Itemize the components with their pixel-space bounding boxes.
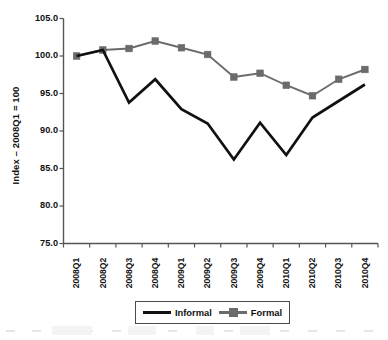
- scan-artifact-smudge: [128, 326, 156, 335]
- x-tick-label-text: 2009Q2: [203, 258, 213, 289]
- scan-artifact-mark: [336, 330, 345, 332]
- x-tick-label-text: 2010Q1: [281, 258, 291, 289]
- x-tick-label-text: 2010Q4: [360, 258, 370, 289]
- x-tick-label: 2010Q3: [333, 249, 345, 301]
- x-tick-label: 2008Q4: [149, 249, 161, 301]
- x-tick-label: 2008Q1: [71, 249, 83, 301]
- x-tick-label: 2008Q3: [123, 249, 135, 301]
- scan-artifact-mark: [364, 330, 373, 332]
- legend-swatch-informal: [143, 307, 171, 318]
- scan-artifact-mark: [6, 330, 15, 332]
- x-tick-label-text: 2009Q4: [255, 258, 265, 289]
- scan-artifact-smudge: [196, 326, 214, 335]
- x-tick-label: 2009Q1: [175, 249, 187, 301]
- x-tick-label-text: 2008Q1: [72, 258, 82, 289]
- scan-artifact-mark: [112, 330, 121, 332]
- x-tick-label: 2010Q2: [306, 249, 318, 301]
- x-tick-label: 2008Q2: [97, 249, 109, 301]
- x-tick-label: 2010Q4: [359, 249, 371, 301]
- x-tick-label: 2009Q4: [254, 249, 266, 301]
- legend-line-informal: [143, 311, 171, 314]
- scan-artifact-smudge: [240, 326, 270, 335]
- chart-figure: Index – 2008Q1 = 100 75.080.085.090.095.…: [0, 0, 388, 340]
- scan-artifact: [0, 326, 388, 340]
- legend-marker-formal: [229, 308, 238, 317]
- legend-item-formal: Formal: [219, 307, 282, 318]
- legend-swatch-formal: [219, 307, 247, 318]
- x-tick-label-text: 2008Q4: [150, 258, 160, 289]
- legend-label-formal: Formal: [251, 308, 282, 317]
- legend-label-informal: Informal: [175, 308, 212, 317]
- scan-artifact-mark: [32, 330, 41, 332]
- x-tick-label-text: 2008Q2: [98, 258, 108, 289]
- legend-item-informal: Informal: [143, 307, 212, 318]
- scan-artifact-smudge: [52, 326, 92, 335]
- scan-artifact-mark: [280, 330, 289, 332]
- x-tick-label-text: 2009Q3: [229, 258, 239, 289]
- x-tick-label: 2009Q3: [228, 249, 240, 301]
- scan-artifact-mark: [224, 330, 233, 332]
- scan-artifact-mark: [168, 330, 177, 332]
- chart-legend: Informal Formal: [135, 301, 290, 324]
- x-tick-label-text: 2010Q3: [334, 258, 344, 289]
- x-tick-label: 2010Q1: [280, 249, 292, 301]
- x-tick-label-text: 2008Q3: [124, 258, 134, 289]
- x-tick-label: 2009Q2: [202, 249, 214, 301]
- x-axis-tick-labels: 2008Q12008Q22008Q32008Q42009Q12009Q22009…: [0, 0, 388, 340]
- x-tick-label-text: 2010Q2: [307, 258, 317, 289]
- x-tick-label-text: 2009Q1: [176, 258, 186, 289]
- scan-artifact-mark: [308, 330, 317, 332]
